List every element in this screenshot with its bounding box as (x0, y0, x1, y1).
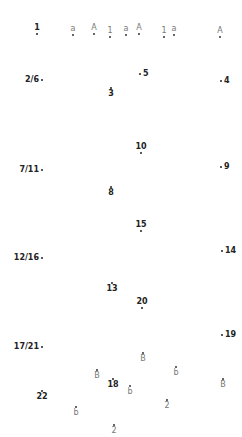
dot-marker-icon (140, 230, 142, 232)
dot-marker-icon (221, 334, 223, 336)
dot-marker-icon (41, 346, 43, 348)
dot-marker-icon (140, 152, 142, 154)
point-label: a (124, 25, 129, 33)
dot-marker-icon (72, 34, 74, 36)
point-label: 12/16 (14, 254, 39, 262)
point-label: 22 (36, 393, 47, 401)
point-label: b (127, 388, 132, 396)
point-label: 18 (107, 381, 118, 389)
point-label: b (173, 369, 178, 377)
point-label: B (140, 355, 146, 363)
point-label: 8 (108, 189, 114, 197)
point-label: 7/11 (19, 166, 39, 174)
point-label: 20 (136, 298, 147, 306)
point-label: 10 (135, 143, 146, 151)
point-label: B (220, 381, 226, 389)
dot-marker-icon (220, 80, 222, 82)
dot-marker-icon (173, 34, 175, 36)
dot-marker-icon (41, 257, 43, 259)
dot-marker-icon (221, 250, 223, 252)
point-label: 5 (143, 70, 149, 78)
dot-marker-icon (138, 33, 140, 35)
dot-marker-icon (109, 36, 111, 38)
point-label: A (91, 24, 96, 32)
dot-puzzle-canvas: 12/63457/11891012/1613141517/2118192022a… (0, 0, 242, 437)
point-label: 1 (107, 27, 112, 35)
point-label: 4 (224, 77, 230, 85)
dot-marker-icon (41, 79, 43, 81)
point-label: a (172, 25, 177, 33)
point-label: 15 (135, 221, 146, 229)
dot-marker-icon (141, 307, 143, 309)
point-label: 2 (111, 427, 116, 435)
point-label: a (71, 25, 76, 33)
point-label: 9 (224, 163, 230, 171)
point-label: 19 (225, 331, 236, 339)
point-label: 13 (106, 285, 117, 293)
point-label: 17/21 (14, 343, 39, 351)
dot-marker-icon (163, 36, 165, 38)
point-label: 2 (164, 402, 169, 410)
point-label: 2/6 (25, 76, 39, 84)
point-label: A (136, 24, 141, 32)
dot-marker-icon (219, 36, 221, 38)
dot-marker-icon (125, 34, 127, 36)
dot-marker-icon (220, 166, 222, 168)
point-label: 1 (161, 27, 166, 35)
point-label: b (73, 409, 78, 417)
point-label: 1 (34, 24, 40, 32)
dot-marker-icon (36, 33, 38, 35)
dot-marker-icon (93, 33, 95, 35)
dot-marker-icon (139, 73, 141, 75)
point-label: A (217, 27, 222, 35)
point-label: 3 (108, 90, 114, 98)
point-label: 14 (225, 247, 236, 255)
dot-marker-icon (41, 169, 43, 171)
point-label: B (94, 372, 100, 380)
